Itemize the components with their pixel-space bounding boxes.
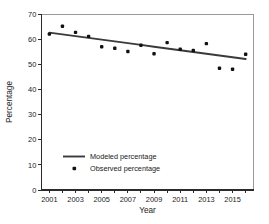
observed-point-2001 <box>48 32 51 35</box>
x-tick-label-2011: 2011 <box>172 195 188 204</box>
x-tick-label-2015: 2015 <box>224 195 240 204</box>
observed-point-2009 <box>152 52 155 55</box>
observed-point-2013 <box>205 42 208 45</box>
y-tick-label-50: 50 <box>28 60 36 69</box>
y-tick-label-40: 40 <box>28 85 36 94</box>
observed-point-2007 <box>126 50 129 53</box>
chart-figure: 0102030405060702001200320052007200920112… <box>0 0 269 224</box>
x-tick-label-2009: 2009 <box>146 195 162 204</box>
modeled-percentage-line <box>49 33 245 59</box>
x-tick-label-2013: 2013 <box>198 195 214 204</box>
observed-point-2010 <box>165 41 168 44</box>
observed-point-2005 <box>100 45 103 48</box>
y-tick-label-30: 30 <box>28 110 36 119</box>
observed-point-2002 <box>61 25 64 28</box>
observed-point-2008 <box>139 43 142 46</box>
x-tick-label-2001: 2001 <box>41 195 57 204</box>
observed-point-2004 <box>87 35 90 38</box>
x-tick-label-2005: 2005 <box>93 195 109 204</box>
legend-label-observed: Observed percentage <box>90 164 160 173</box>
y-tick-label-70: 70 <box>28 10 36 19</box>
legend-swatch-observed-marker <box>73 167 77 171</box>
observed-point-2006 <box>113 46 116 49</box>
observed-point-2016 <box>244 53 247 56</box>
y-axis-title: Percentage <box>5 81 14 123</box>
observed-percentage-points <box>48 25 248 71</box>
x-axis-title: Year <box>139 206 156 215</box>
x-tick-label-2007: 2007 <box>120 195 136 204</box>
y-tick-label-0: 0 <box>32 186 36 195</box>
observed-point-2011 <box>179 48 182 51</box>
legend-label-modeled: Modeled percentage <box>90 152 157 161</box>
observed-point-2014 <box>218 67 221 70</box>
percentage-by-year-chart: 0102030405060702001200320052007200920112… <box>0 0 269 224</box>
observed-point-2015 <box>231 68 234 71</box>
y-tick-label-60: 60 <box>28 35 36 44</box>
y-tick-label-20: 20 <box>28 135 36 144</box>
y-tick-label-10: 10 <box>28 161 36 170</box>
observed-point-2003 <box>74 31 77 34</box>
observed-point-2012 <box>192 49 195 52</box>
x-tick-label-2003: 2003 <box>67 195 83 204</box>
